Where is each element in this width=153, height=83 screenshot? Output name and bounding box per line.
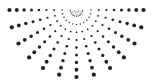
halftone-dot (85, 45, 88, 48)
halftone-dot (98, 9, 100, 11)
halftone-dot (32, 20, 35, 23)
halftone-dot (69, 22, 70, 23)
center-arc-dot (75, 12, 76, 13)
halftone-dot (70, 31, 72, 33)
halftone-dot (43, 27, 46, 30)
halftone-dot (88, 17, 89, 18)
center-arc-dot (74, 13, 75, 14)
halftone-dot (75, 39, 77, 41)
halftone-dot (29, 35, 32, 38)
halftone-dot (52, 48, 55, 51)
halftone-dot (41, 66, 45, 70)
halftone-dot (76, 24, 77, 25)
halftone-dot (24, 22, 27, 25)
halftone-dot (88, 59, 91, 62)
halftone-dots (7, 8, 145, 79)
halftone-dot (62, 13, 63, 14)
halftone-dot (59, 66, 63, 70)
halftone-dot (72, 23, 73, 24)
halftone-dot (90, 66, 94, 70)
center-arc-dot (74, 10, 75, 11)
center-arc-dot (77, 11, 78, 12)
halftone-dot (7, 8, 11, 12)
halftone-dot (17, 24, 21, 28)
sunburst-dot-graphic (0, 0, 153, 83)
halftone-dot (112, 45, 115, 48)
halftone-dot (75, 68, 79, 72)
halftone-dot (132, 24, 136, 28)
halftone-dot (132, 41, 136, 45)
halftone-dot (61, 9, 62, 10)
halftone-dot (114, 31, 117, 34)
halftone-dot (101, 54, 104, 57)
halftone-dot (10, 25, 14, 29)
halftone-dot (119, 20, 122, 23)
halftone-dot (95, 20, 97, 22)
halftone-dot (56, 20, 58, 22)
center-arc-dot (78, 16, 79, 17)
center-arc-dot (79, 13, 80, 14)
halftone-dot (112, 18, 115, 21)
halftone-dot (60, 25, 62, 27)
halftone-dot (98, 48, 101, 51)
halftone-dot (108, 66, 112, 70)
halftone-dot (49, 24, 51, 26)
halftone-dot (54, 15, 56, 17)
halftone-dot (36, 31, 39, 34)
halftone-dot (97, 15, 99, 17)
halftone-dot (22, 8, 25, 11)
center-arc-dot (80, 11, 81, 12)
center-arc-dot (80, 12, 81, 13)
halftone-dot (120, 9, 123, 12)
halftone-dot (90, 9, 91, 10)
halftone-dot (23, 38, 27, 42)
halftone-dot (64, 28, 66, 30)
halftone-dot (139, 25, 143, 29)
halftone-dot (75, 54, 78, 57)
center-arc-dot (76, 14, 77, 15)
halftone-dot (68, 38, 70, 40)
halftone-dot (65, 45, 68, 48)
center-arc-dot (78, 10, 79, 11)
halftone-dot (39, 18, 42, 21)
halftone-dot (75, 61, 78, 64)
halftone-dot (54, 30, 56, 32)
center-arc-dot (76, 16, 77, 17)
halftone-dot (27, 55, 31, 59)
halftone-dot (38, 9, 41, 12)
halftone-dot (90, 13, 91, 14)
halftone-dot (56, 41, 59, 44)
halftone-dot (32, 50, 36, 54)
halftone-dot (46, 17, 48, 19)
halftone-dot (141, 8, 145, 12)
halftone-dot (126, 38, 130, 42)
halftone-dot (87, 52, 90, 55)
halftone-dot (66, 20, 67, 21)
center-arc-dot (71, 14, 72, 15)
halftone-dot (86, 20, 87, 21)
halftone-dot (92, 73, 96, 77)
halftone-dot (125, 22, 128, 25)
halftone-dot (71, 13, 72, 14)
halftone-dot (63, 52, 66, 55)
halftone-dot (79, 15, 80, 16)
halftone-dot (15, 8, 19, 12)
halftone-dot (60, 35, 62, 37)
halftone-dot (117, 50, 121, 54)
halftone-dot (104, 60, 108, 64)
halftone-dot (45, 9, 47, 11)
halftone-dot (16, 41, 20, 45)
halftone-dot (73, 15, 74, 16)
halftone-dot (49, 35, 52, 38)
halftone-dot (81, 13, 82, 14)
halftone-dot (127, 8, 130, 11)
halftone-dot (91, 25, 93, 27)
halftone-dot (80, 23, 81, 24)
halftone-dot (97, 30, 99, 32)
halftone-dot (74, 75, 78, 79)
center-arc-dot (77, 12, 78, 13)
center-arc-dot (70, 10, 71, 11)
halftone-dot (120, 35, 123, 38)
halftone-dot (83, 22, 84, 23)
halftone-dot (90, 35, 92, 37)
